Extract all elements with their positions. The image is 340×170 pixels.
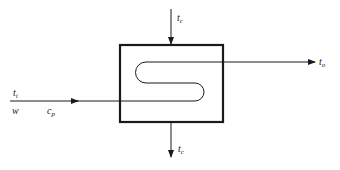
heat-exchanger-diagram: tc tc to ti w cp	[0, 0, 340, 170]
label-fluid-in-temp: ti	[13, 87, 18, 100]
label-coolant-in: tc	[177, 12, 184, 25]
label-fluid-out-temp: to	[319, 56, 326, 69]
label-specific-heat: cp	[47, 105, 55, 118]
label-coolant-out: tc	[178, 143, 185, 156]
label-mass-flow: w	[12, 105, 19, 116]
coil-tube	[120, 62, 223, 101]
